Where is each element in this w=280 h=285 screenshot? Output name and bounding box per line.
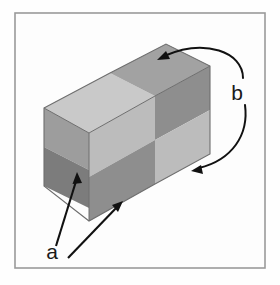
figure-canvas: a b	[0, 0, 280, 285]
figure-container: a b	[0, 0, 280, 285]
label-a: a	[46, 240, 58, 263]
label-b: b	[231, 81, 243, 104]
